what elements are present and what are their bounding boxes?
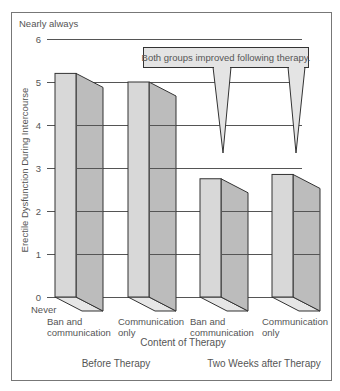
x-category-label-line1: Communication <box>262 316 328 327</box>
bar-side-face <box>293 174 320 311</box>
y-tick-label: 4 <box>36 120 41 131</box>
y-top-label: Nearly always <box>19 18 78 29</box>
y-tick-label: 6 <box>36 34 41 45</box>
y-tick-label: 1 <box>36 249 41 260</box>
bar <box>200 179 248 311</box>
bar-side-face <box>76 73 103 311</box>
group-label-after: Two Weeks after Therapy <box>207 358 321 369</box>
x-category-label-line1: Ban and <box>47 316 82 327</box>
bar-side-face <box>149 82 176 311</box>
x-category-label-line1: Ban and <box>190 316 225 327</box>
bar <box>272 174 320 311</box>
y-tick-label: 0 <box>36 292 41 303</box>
bar <box>55 73 103 311</box>
group-label-before: Before Therapy <box>82 358 151 369</box>
x-category-label-line2: only <box>118 327 136 338</box>
bar <box>128 82 176 311</box>
annotation-text: Both groups improved following therapy. <box>142 52 311 63</box>
x-category-label-line2: only <box>262 327 280 338</box>
y-tick-label: 5 <box>36 77 41 88</box>
x-category-label-line1: Communication <box>118 316 184 327</box>
y-axis-title: Erectile Dysfunction During Intercourse <box>19 88 30 253</box>
bar-front-face <box>55 73 76 297</box>
y-bottom-label: Never <box>31 304 56 315</box>
bar-front-face <box>272 174 293 297</box>
bar-side-face <box>221 179 248 311</box>
bar-front-face <box>200 179 221 297</box>
bar-chart: 0123456 Nearly always Never Erectile Dys… <box>0 0 340 391</box>
x-axis-title: Content of Therapy <box>140 337 225 348</box>
x-category-label-line2: communication <box>47 327 111 338</box>
y-tick-label: 3 <box>36 163 41 174</box>
y-tick-label: 2 <box>36 206 41 217</box>
bar-front-face <box>128 82 149 297</box>
